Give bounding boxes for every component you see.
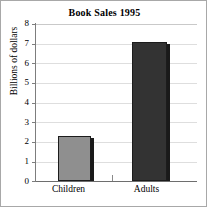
- y-tick-mark-6: [32, 63, 36, 64]
- y-tick-label-7: 7: [13, 39, 29, 48]
- bar-children: [58, 136, 91, 181]
- y-tick-label-2: 2: [13, 137, 29, 146]
- y-tick-mark-3: [32, 122, 36, 123]
- y-tick-label-8: 8: [13, 19, 29, 28]
- x-tick-label-adults: Adults: [114, 184, 179, 194]
- bar-adults-shadow: [167, 44, 170, 181]
- y-tick-mark-5: [32, 83, 36, 84]
- gridline-3: [36, 122, 197, 123]
- y-tick-label-1: 1: [13, 157, 29, 166]
- gridline-8: [36, 24, 197, 25]
- bar-adults: [132, 42, 167, 181]
- chart-title: Book Sales 1995: [1, 7, 207, 18]
- gridline-5: [36, 83, 197, 84]
- gridline-4: [36, 103, 197, 104]
- y-tick-mark-8: [32, 24, 36, 25]
- y-tick-label-4: 4: [13, 98, 29, 107]
- y-tick-label-0: 0: [13, 177, 29, 186]
- gridline-6: [36, 63, 197, 64]
- chart-figure: Book Sales 1995 Billions of dollars 8 7: [0, 0, 207, 207]
- plot-area: [36, 24, 197, 181]
- y-tick-mark-1: [32, 162, 36, 163]
- bar-children-face: [58, 136, 91, 181]
- y-tick-label-6: 6: [13, 59, 29, 68]
- y-tick-mark-2: [32, 142, 36, 143]
- x-axis-middle-tick: [112, 175, 113, 181]
- bar-children-shadow: [91, 138, 94, 181]
- gridline-7: [36, 44, 197, 45]
- y-tick-label-5: 5: [13, 78, 29, 87]
- y-tick-mark-4: [32, 103, 36, 104]
- x-axis-line: [35, 181, 197, 182]
- y-tick-label-3: 3: [13, 118, 29, 127]
- y-tick-mark-0: [32, 181, 36, 182]
- y-tick-mark-7: [32, 44, 36, 45]
- x-tick-label-children: Children: [36, 184, 101, 194]
- bar-adults-face: [132, 42, 167, 181]
